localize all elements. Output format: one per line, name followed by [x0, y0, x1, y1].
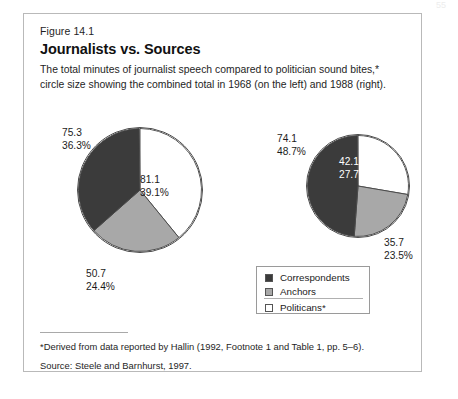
figure-container: Figure 14.1 Journalists vs. Sources The …	[23, 13, 422, 372]
pie-1968-label-anchors: 50.7 24.4%	[86, 267, 115, 293]
legend-swatch-gray-icon	[265, 288, 273, 296]
legend-swatch-white-icon	[265, 304, 273, 312]
footnote-text: *Derived from data reported by Hallin (1…	[40, 341, 364, 352]
pie-1988-svg	[306, 134, 410, 238]
legend-swatch-dark-icon	[265, 274, 273, 282]
chart-legend: Correspondents Anchors Politicans*	[256, 266, 370, 314]
pie-1968-label-correspondents: 75.3 36.3%	[62, 126, 91, 152]
pie-1988-label-anchors: 35.7 23.5%	[384, 236, 413, 262]
legend-divider	[264, 298, 363, 299]
page-number: 55	[436, 0, 446, 10]
legend-item-correspondents[interactable]: Correspondents	[265, 272, 350, 283]
source-note: Source: Steele and Barnhurst, 1997.	[40, 360, 192, 371]
footnote-rule	[40, 332, 128, 333]
legend-item-politicans[interactable]: Politicans*	[265, 302, 326, 313]
legend-label-correspondents: Correspondents	[280, 272, 350, 283]
legend-label-politicans: Politicans*	[280, 302, 326, 313]
pie-chart-1988	[306, 134, 410, 238]
pie-1988-label-correspondents: 74.1 48.7%	[277, 132, 306, 158]
pie-slice-correspondents	[307, 135, 358, 236]
pie-slice-anchors	[354, 186, 408, 237]
legend-item-anchors[interactable]: Anchors	[265, 286, 316, 297]
figure-subtitle: The total minutes of journalist speech c…	[40, 63, 406, 92]
legend-label-anchors: Anchors	[280, 286, 316, 297]
figure-title: Journalists vs. Sources	[40, 41, 201, 57]
figure-number-label: Figure 14.1	[40, 25, 94, 37]
pie-1968-label-politicans: 81.1 39.1%	[140, 173, 169, 199]
pie-1988-label-politicans: 42.1 27.7%	[339, 155, 368, 181]
pie-1988-slices	[307, 135, 408, 236]
